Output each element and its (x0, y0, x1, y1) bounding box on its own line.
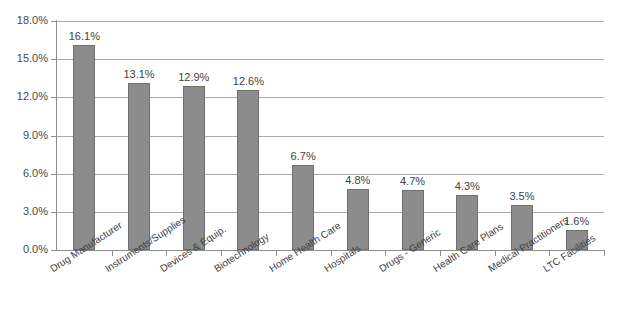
y-axis-tick (51, 97, 56, 98)
bar-value-label: 16.1% (54, 30, 114, 42)
y-axis-line (56, 20, 57, 251)
y-axis-tick-label-wrap: 6.0% (0, 168, 48, 179)
bar-chart: 18.0%15.0%12.0%9.0%6.0%3.0%0.0% 16.1%13.… (0, 0, 619, 325)
gridline (57, 59, 604, 60)
y-axis-tick (51, 136, 56, 137)
y-axis-tick-label: 6.0% (4, 168, 48, 179)
bar-value-label: 3.5% (492, 190, 552, 202)
y-axis-tick (51, 212, 56, 213)
bar-value-label: 4.8% (328, 174, 388, 186)
y-axis-tick (51, 59, 56, 60)
x-axis-tick (440, 251, 441, 256)
y-axis-tick-label-wrap: 18.0% (0, 15, 48, 26)
y-axis-tick-label: 12.0% (4, 91, 48, 102)
y-axis-tick-label-wrap: 3.0% (0, 206, 48, 217)
x-axis-tick (549, 251, 550, 256)
x-axis-tick (276, 251, 277, 256)
x-axis-tick (221, 251, 222, 256)
y-axis-tick (51, 21, 56, 22)
y-axis-tick-label-wrap: 15.0% (0, 53, 48, 64)
x-axis-tick (385, 251, 386, 256)
y-axis-tick-label: 18.0% (4, 15, 48, 26)
y-axis-tick-label: 15.0% (4, 53, 48, 64)
bar-value-label: 4.3% (437, 180, 497, 192)
bar (128, 83, 150, 250)
y-axis-tick-label-wrap: 0.0% (0, 244, 48, 255)
x-axis-tick (604, 251, 605, 256)
y-axis-tick-label: 3.0% (4, 206, 48, 217)
bar (183, 86, 205, 250)
bar (347, 189, 369, 250)
x-axis-tick (495, 251, 496, 256)
bar (73, 45, 95, 250)
x-axis-tick (112, 251, 113, 256)
y-axis-tick (51, 174, 56, 175)
gridline (57, 21, 604, 22)
y-axis-tick-label: 9.0% (4, 130, 48, 141)
bar-value-label: 4.7% (383, 175, 443, 187)
y-axis-tick-label: 0.0% (4, 244, 48, 255)
x-axis-tick (166, 251, 167, 256)
bar-value-label: 12.9% (164, 71, 224, 83)
y-axis-tick-label-wrap: 12.0% (0, 91, 48, 102)
bar-value-label: 6.7% (273, 150, 333, 162)
y-axis-tick-label-wrap: 9.0% (0, 130, 48, 141)
bar-value-label: 12.6% (218, 75, 278, 87)
bar-value-label: 13.1% (109, 68, 169, 80)
x-axis-tick (331, 251, 332, 256)
y-axis-tick (51, 250, 56, 251)
bar (237, 90, 259, 250)
